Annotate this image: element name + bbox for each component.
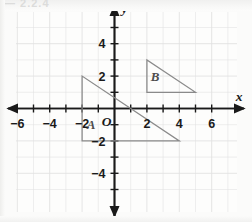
triangle-a-label: A: [86, 117, 96, 132]
x-axis-label: x: [235, 89, 243, 104]
x-tick-label: −4: [43, 117, 57, 131]
x-tick-label: −6: [10, 117, 24, 131]
x-tick-label: 6: [208, 117, 215, 131]
x-tick-label: 2: [143, 117, 150, 131]
origin-label: O: [102, 114, 112, 129]
coordinate-plane-svg: −6−4−224642−2−4O AB xy: [0, 0, 252, 222]
y-tick-label: 2: [99, 70, 106, 84]
y-tick-label: −4: [91, 167, 105, 181]
y-axis-label: y: [120, 1, 129, 16]
x-tick-label: 4: [176, 117, 183, 131]
y-tick-label: −2: [91, 135, 105, 149]
y-tick-label: 4: [99, 37, 106, 51]
triangle-b-label: B: [150, 69, 160, 84]
coordinate-plane-figure: −6−4−224642−2−4O AB xy — 2.2.4: [0, 0, 252, 222]
